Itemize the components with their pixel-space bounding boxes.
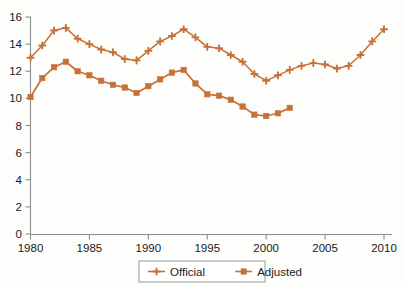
- line-chart: 0246810121416 19801985199019952000200520…: [0, 0, 404, 287]
- series-layer: [27, 25, 387, 119]
- data-point: [87, 73, 92, 78]
- data-point: [193, 81, 198, 86]
- y-tick-label: 12: [9, 65, 22, 77]
- data-point: [146, 83, 151, 88]
- data-point: [75, 69, 80, 74]
- x-tick-label: 2005: [312, 242, 338, 254]
- data-point: [181, 67, 186, 72]
- data-point: [216, 45, 222, 51]
- data-point: [134, 90, 139, 95]
- data-point: [169, 33, 175, 39]
- data-point: [287, 105, 292, 110]
- data-point: [40, 75, 45, 80]
- data-point: [110, 82, 115, 87]
- data-point: [322, 61, 328, 67]
- data-point: [240, 104, 245, 109]
- x-tick-label: 1990: [136, 242, 162, 254]
- data-point: [263, 113, 268, 118]
- data-point: [28, 94, 33, 99]
- data-point: [275, 72, 281, 78]
- legend-marker: [241, 269, 246, 274]
- data-point: [228, 52, 234, 58]
- data-point: [310, 60, 316, 66]
- chart-container: 0246810121416 19801985199019952000200520…: [0, 0, 404, 287]
- series-adjusted: [28, 59, 293, 119]
- y-axis: 0246810121416: [9, 11, 30, 240]
- y-tick-label: 16: [9, 11, 22, 23]
- data-point: [275, 111, 280, 116]
- x-tick-group: 1980198519901995200020052010: [18, 235, 397, 255]
- data-point: [263, 78, 269, 84]
- series-official: [27, 25, 387, 84]
- data-point: [51, 64, 56, 69]
- data-point: [98, 46, 104, 52]
- data-point: [169, 70, 174, 75]
- y-tick-label: 10: [9, 92, 22, 104]
- data-point: [86, 41, 92, 47]
- y-tick-group: 0246810121416: [9, 11, 30, 240]
- data-point: [287, 67, 293, 73]
- data-point: [298, 63, 304, 69]
- data-point: [122, 85, 127, 90]
- data-point: [334, 65, 340, 71]
- data-point: [205, 92, 210, 97]
- x-tick-label: 1985: [77, 242, 103, 254]
- data-point: [63, 59, 68, 64]
- x-tick-label: 1995: [194, 242, 220, 254]
- data-point: [216, 93, 221, 98]
- data-point: [122, 56, 128, 62]
- chart-legend: OfficialAdjusted: [139, 261, 302, 282]
- y-tick-label: 4: [16, 174, 23, 186]
- x-tick-label: 2000: [253, 242, 279, 254]
- x-tick-label: 2010: [371, 242, 397, 254]
- y-tick-label: 6: [16, 147, 22, 159]
- data-point: [99, 78, 104, 83]
- y-tick-label: 0: [16, 228, 22, 240]
- data-point: [157, 77, 162, 82]
- y-tick-label: 8: [16, 120, 22, 132]
- data-point: [110, 49, 116, 55]
- x-axis: 1980198519901995200020052010: [18, 235, 397, 255]
- legend-label: Adjusted: [257, 266, 302, 278]
- data-point: [252, 112, 257, 117]
- x-tick-label: 1980: [18, 242, 44, 254]
- y-tick-label: 2: [16, 201, 22, 213]
- y-tick-label: 14: [9, 38, 22, 50]
- legend-label: Official: [170, 266, 205, 278]
- data-point: [228, 97, 233, 102]
